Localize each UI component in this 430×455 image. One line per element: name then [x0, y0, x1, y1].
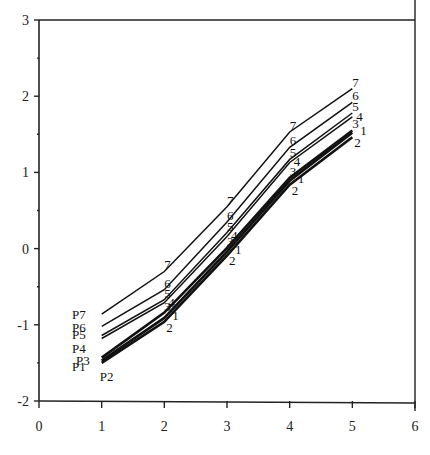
point-marker-label: 7 — [164, 257, 171, 272]
x-tick-label: 2 — [161, 419, 168, 434]
y-tick-label: -2 — [17, 394, 29, 409]
point-marker-label: 6 — [352, 88, 359, 103]
point-marker-label: 1 — [172, 308, 179, 323]
point-marker-label: 6 — [164, 276, 171, 291]
y-tick-label: -1 — [17, 318, 29, 333]
point-marker-label: 7 — [290, 118, 297, 133]
x-tick-label: 4 — [286, 419, 293, 434]
y-tick-label: 0 — [22, 242, 29, 257]
series-name-label: P6 — [72, 320, 86, 335]
x-tick-label: 0 — [36, 419, 43, 434]
point-marker-label: 2 — [354, 135, 361, 150]
point-marker-label: 2 — [292, 183, 299, 198]
point-marker-label: 1 — [235, 242, 242, 257]
point-marker-label: 7 — [227, 193, 234, 208]
point-marker-label: 2 — [166, 320, 173, 335]
x-tick-label: 6 — [412, 419, 419, 434]
x-tick-label: 1 — [98, 419, 105, 434]
point-marker-label: 1 — [360, 123, 367, 138]
point-marker-label: 6 — [227, 208, 234, 223]
y-tick-label: 1 — [22, 165, 29, 180]
point-marker-label: 2 — [229, 253, 236, 268]
x-tick-label: 5 — [349, 419, 356, 434]
y-tick-label: 3 — [22, 13, 29, 28]
point-marker-label: 7 — [352, 75, 359, 90]
point-marker-label: 6 — [290, 133, 297, 148]
point-marker-label: 1 — [298, 171, 305, 186]
line-chart: -2-101230123456 P1P2P3P4P5P6P71111222233… — [0, 0, 430, 455]
series-name-label: P4 — [72, 341, 86, 356]
x-tick-label: 3 — [224, 419, 231, 434]
series-name-label: P7 — [72, 307, 86, 322]
series-name-label: P2 — [100, 369, 114, 384]
y-tick-label: 2 — [22, 89, 29, 104]
